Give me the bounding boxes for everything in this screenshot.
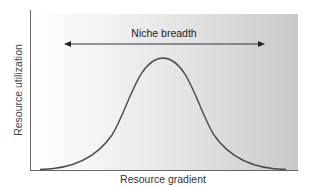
- niche-breadth-arrow: [64, 41, 265, 47]
- x-axis-label: Resource gradient: [120, 173, 206, 185]
- niche-breadth-figure: Niche breadth Resource utilization Resou…: [0, 0, 313, 186]
- arrow-head-left-icon: [64, 41, 71, 47]
- y-axis-label: Resource utilization: [12, 44, 24, 136]
- resource-utilization-curve: [40, 58, 286, 170]
- arrow-head-right-icon: [258, 41, 265, 47]
- niche-breadth-label: Niche breadth: [131, 27, 196, 39]
